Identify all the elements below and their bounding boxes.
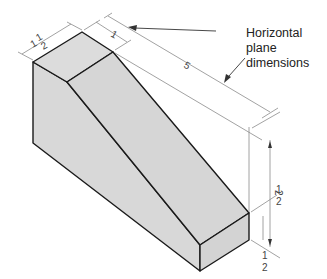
- callout-leaders: [134, 28, 245, 76]
- dim-base-num: 1: [262, 250, 268, 261]
- dim-base-den: 2: [262, 262, 268, 273]
- dim-top-width: 1: [109, 28, 120, 41]
- callout-line-1: Horizontal plane: [246, 26, 327, 56]
- dim-depth-den: 2: [39, 39, 50, 52]
- dim-height-den: 2: [276, 196, 282, 207]
- callout-label: Horizontal plane dimensions: [246, 26, 327, 71]
- callout-line-2: dimensions: [246, 56, 327, 71]
- part-body: [33, 32, 249, 271]
- dim-height-num: 1: [276, 184, 282, 195]
